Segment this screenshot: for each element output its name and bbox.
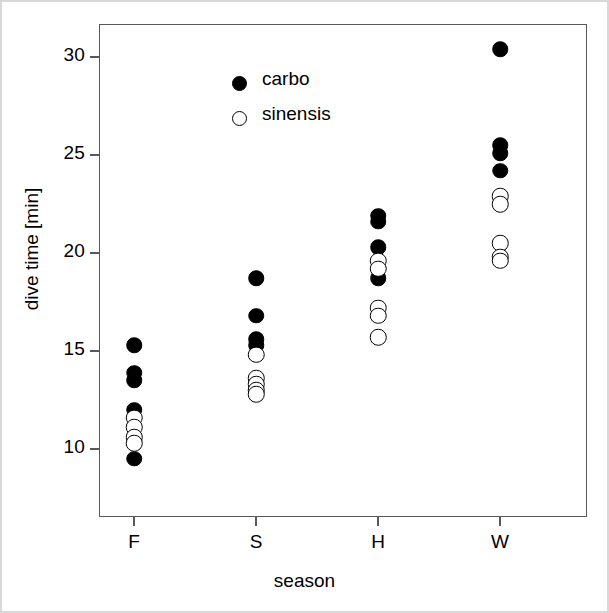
x-axis-tick-mark <box>133 517 135 526</box>
data-point-sinensis <box>248 386 265 403</box>
y-axis-tick-mark <box>90 154 99 156</box>
y-axis-tick-mark <box>90 56 99 58</box>
data-point-sinensis <box>370 260 387 277</box>
legend-item-carbo: carbo <box>232 68 412 103</box>
y-axis-tick-label: 10 <box>63 436 85 458</box>
y-axis-tick-label: 15 <box>63 338 85 360</box>
figure-border-left <box>0 0 2 613</box>
y-axis-tick-mark <box>90 252 99 254</box>
x-axis-tick-label: H <box>358 531 398 553</box>
data-point-sinensis <box>492 196 509 213</box>
y-axis-tick-label: 20 <box>63 240 85 262</box>
x-axis-tick-label: S <box>236 531 276 553</box>
figure-border-top <box>0 0 609 2</box>
y-axis-tick-mark <box>90 448 99 450</box>
legend-label-sinensis: sinensis <box>262 103 331 125</box>
data-point-sinensis <box>370 329 387 346</box>
data-point-carbo <box>126 337 142 353</box>
data-point-carbo <box>248 271 264 287</box>
data-point-carbo <box>492 41 508 57</box>
legend-label-carbo: carbo <box>262 68 310 90</box>
x-axis-tick-mark <box>499 517 501 526</box>
scatter-plot-figure: 1015202530 FSHW dive time [min] season c… <box>0 0 609 613</box>
data-point-sinensis <box>492 253 509 270</box>
open-circle-icon <box>232 111 247 126</box>
data-point-carbo <box>492 145 508 161</box>
legend: carbo sinensis <box>232 68 412 138</box>
data-point-sinensis <box>370 307 387 324</box>
data-point-sinensis <box>248 347 265 364</box>
y-axis-label: dive time [min] <box>21 149 43 349</box>
filled-circle-icon <box>232 76 247 91</box>
data-point-carbo <box>248 308 264 324</box>
x-axis-tick-mark <box>255 517 257 526</box>
x-axis-tick-label: W <box>480 531 520 553</box>
y-axis-tick-label: 25 <box>63 142 85 164</box>
legend-item-sinensis: sinensis <box>232 103 412 138</box>
data-point-carbo <box>370 214 386 230</box>
data-point-carbo <box>126 451 142 467</box>
data-point-carbo <box>126 373 142 389</box>
x-axis-tick-label: F <box>114 531 154 553</box>
data-point-sinensis <box>126 435 143 452</box>
plot-data-area: carbo sinensis <box>99 24 587 517</box>
y-axis-tick-mark <box>90 350 99 352</box>
x-axis-label: season <box>0 570 609 592</box>
y-axis-tick-label: 30 <box>63 44 85 66</box>
x-axis-tick-mark <box>377 517 379 526</box>
data-point-carbo <box>492 163 508 179</box>
